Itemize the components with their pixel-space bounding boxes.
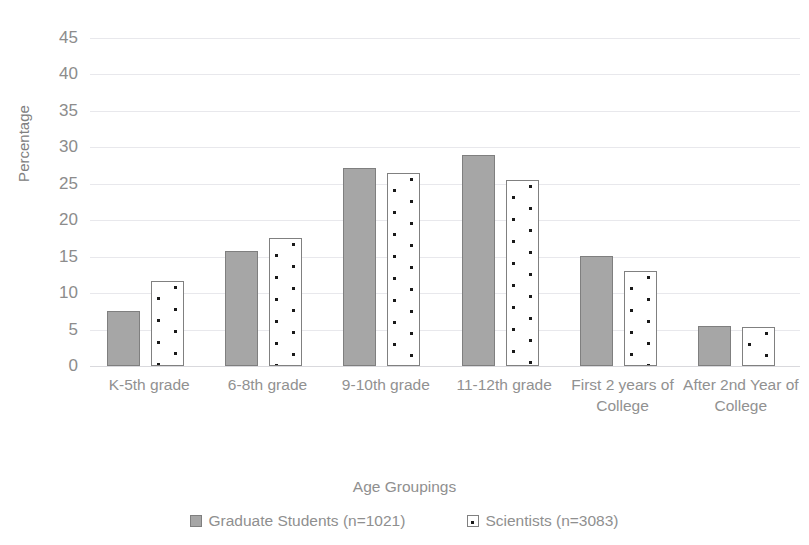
- y-tick-label-10: 10: [18, 284, 78, 301]
- pattern-dot: [410, 222, 413, 225]
- bar-scientists-3: [387, 173, 420, 366]
- y-tick-label-30: 30: [18, 138, 78, 155]
- pattern-dot: [275, 364, 278, 366]
- x-tick-label-6: After 2nd Year of College: [682, 374, 800, 416]
- pattern-dot: [529, 207, 532, 210]
- pattern-dot: [512, 218, 515, 221]
- bar-group-3: [327, 38, 445, 366]
- pattern-dot: [765, 332, 768, 335]
- y-tick-label-0: 0: [18, 357, 78, 374]
- y-tick-label-40: 40: [18, 65, 78, 82]
- pattern-dot: [292, 287, 295, 290]
- y-tick-label-15: 15: [18, 248, 78, 265]
- x-tick-label-4: 11-12th grade: [445, 374, 563, 395]
- pattern-dot: [529, 251, 532, 254]
- bar-scientists-4: [506, 180, 539, 366]
- pattern-dot: [174, 352, 177, 355]
- bar-graduate-students-4: [462, 155, 495, 366]
- legend-label-graduate-students: Graduate Students (n=1021): [208, 512, 405, 530]
- pattern-dot: [393, 211, 396, 214]
- legend-item-graduate-students: Graduate Students (n=1021): [190, 512, 405, 530]
- pattern-dot: [410, 354, 413, 357]
- pattern-dot: [157, 363, 160, 366]
- pattern-dot: [174, 330, 177, 333]
- pattern-dot: [512, 196, 515, 199]
- bar-graduate-students-5: [580, 256, 613, 366]
- pattern-dot: [292, 331, 295, 334]
- pattern-dot: [512, 350, 515, 353]
- x-tick-label-3: 9-10th grade: [327, 374, 445, 395]
- pattern-dot: [512, 262, 515, 265]
- x-axis-tick-labels: K-5th grade6-8th grade9-10th grade11-12t…: [90, 374, 800, 474]
- dot-pattern: [388, 174, 419, 365]
- pattern-dot: [410, 288, 413, 291]
- pattern-dot: [157, 341, 160, 344]
- pattern-dot: [647, 364, 650, 366]
- pattern-dot: [512, 306, 515, 309]
- pattern-dot: [275, 320, 278, 323]
- bar-graduate-students-6: [698, 326, 731, 366]
- pattern-dot: [529, 185, 532, 188]
- pattern-dot: [393, 255, 396, 258]
- pattern-dot: [630, 331, 633, 334]
- dot-pattern: [625, 272, 656, 365]
- pattern-dot: [157, 319, 160, 322]
- pattern-dot: [292, 265, 295, 268]
- bar-graduate-students-2: [225, 251, 258, 366]
- bar-scientists-2: [269, 238, 302, 366]
- bar-scientists-6: [742, 327, 775, 366]
- pattern-dot: [292, 353, 295, 356]
- pattern-dot: [157, 297, 160, 300]
- pattern-dot: [630, 287, 633, 290]
- pattern-dot: [410, 266, 413, 269]
- pattern-dot: [410, 310, 413, 313]
- y-tick-label-5: 5: [18, 321, 78, 338]
- pattern-dot: [630, 353, 633, 356]
- y-tick-label-20: 20: [18, 211, 78, 228]
- bar-graduate-students-3: [343, 168, 376, 366]
- pattern-dot: [275, 276, 278, 279]
- bar-chart: Percentage 051015202530354045 K-5th grad…: [0, 0, 809, 545]
- pattern-dot: [647, 342, 650, 345]
- pattern-dot: [393, 277, 396, 280]
- pattern-dot: [174, 286, 177, 289]
- pattern-dot: [529, 317, 532, 320]
- y-tick-label-35: 35: [18, 102, 78, 119]
- y-axis-tick-labels: 051015202530354045: [0, 38, 78, 366]
- pattern-dot: [630, 309, 633, 312]
- y-tick-label-25: 25: [18, 175, 78, 192]
- chart-legend: Graduate Students (n=1021) Scientists (n…: [0, 512, 809, 530]
- pattern-dot: [174, 308, 177, 311]
- dot-pattern: [270, 239, 301, 365]
- pattern-dot: [529, 361, 532, 364]
- pattern-dot: [410, 200, 413, 203]
- pattern-dot: [529, 273, 532, 276]
- bar-scientists-1: [151, 281, 184, 366]
- y-tick-label-45: 45: [18, 29, 78, 46]
- pattern-dot: [512, 240, 515, 243]
- pattern-dot: [529, 295, 532, 298]
- bar-group-1: [90, 38, 208, 366]
- bar-group-4: [445, 38, 563, 366]
- dot-pattern: [743, 328, 774, 365]
- pattern-dot: [275, 254, 278, 257]
- pattern-dot: [748, 343, 751, 346]
- legend-item-scientists: Scientists (n=3083): [467, 512, 618, 530]
- plot-area: [90, 38, 800, 366]
- pattern-dot: [765, 354, 768, 357]
- pattern-dot: [393, 321, 396, 324]
- pattern-dot: [393, 189, 396, 192]
- x-tick-label-1: K-5th grade: [90, 374, 208, 395]
- legend-label-scientists: Scientists (n=3083): [485, 512, 618, 530]
- pattern-dot: [410, 244, 413, 247]
- pattern-dot: [410, 178, 413, 181]
- pattern-dot: [393, 365, 396, 366]
- pattern-dot: [529, 229, 532, 232]
- pattern-dot: [512, 284, 515, 287]
- pattern-dot: [647, 276, 650, 279]
- pattern-dot: [393, 343, 396, 346]
- pattern-dot: [647, 320, 650, 323]
- pattern-dot: [292, 243, 295, 246]
- pattern-dot: [292, 309, 295, 312]
- pattern-dot: [529, 339, 532, 342]
